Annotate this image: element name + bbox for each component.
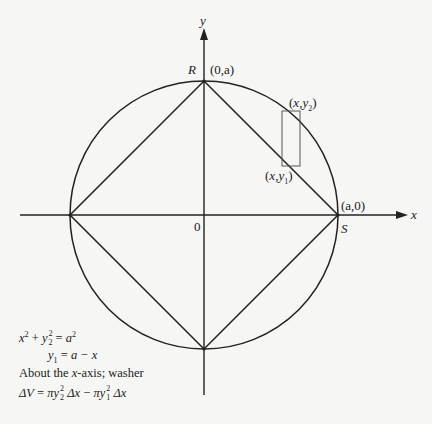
line3-post: -axis; washer bbox=[77, 366, 143, 380]
x-axis-arrow-icon bbox=[396, 211, 408, 219]
eq4-minus: − bbox=[80, 386, 93, 400]
equation-circle: x2 + y22 = a2 bbox=[19, 330, 76, 348]
eq1-y-sub: 2 bbox=[48, 338, 52, 347]
eq4-term1-exp: 2 bbox=[60, 384, 64, 393]
vertex-bottom bbox=[202, 347, 205, 350]
upper-point-label: (x,y2) bbox=[289, 96, 317, 109]
x-axis-label: x bbox=[411, 208, 417, 221]
eq4-term2: πy bbox=[93, 386, 105, 400]
eq1-plus: + bbox=[29, 331, 42, 345]
point-R-label: R bbox=[188, 63, 196, 76]
lower-point-label: (x,y1) bbox=[265, 169, 293, 182]
line3-pre: About the bbox=[19, 366, 72, 380]
eq4-term1-dx: Δx bbox=[64, 386, 80, 400]
point-S-coord-text: (a,0) bbox=[341, 198, 365, 213]
eq4-dv: ΔV bbox=[19, 386, 34, 400]
point-S-coord: (a,0) bbox=[341, 199, 365, 212]
eq4-term2-dx: Δx bbox=[110, 386, 126, 400]
eq1-a-exp: 2 bbox=[72, 330, 76, 339]
point-R-coord: (0,a) bbox=[210, 63, 234, 76]
point-S-label: S bbox=[341, 222, 348, 235]
vertex-S bbox=[336, 213, 339, 216]
washer-description: About the x-axis; washer bbox=[19, 367, 144, 380]
eq1-equals: = bbox=[52, 331, 65, 345]
eq1-y: y bbox=[42, 331, 48, 345]
y-axis-arrow-icon bbox=[200, 28, 208, 40]
y-axis-label: y bbox=[200, 14, 206, 27]
vertex-R bbox=[202, 79, 205, 82]
eq2-rhs: a − x bbox=[71, 348, 97, 362]
eq4-term1: πy bbox=[47, 386, 59, 400]
eq4-term1-supsub: 22 bbox=[60, 384, 64, 402]
vertex-left bbox=[68, 213, 71, 216]
eq4-term2-sub: 1 bbox=[106, 393, 110, 402]
equation-volume: ΔV = πy22 Δx − πy21 Δx bbox=[19, 385, 126, 403]
eq4-equals: = bbox=[34, 386, 47, 400]
eq1-y-supsub: 22 bbox=[48, 329, 52, 347]
eq4-term2-supsub: 21 bbox=[106, 384, 110, 402]
eq4-term1-sub: 2 bbox=[60, 393, 64, 402]
origin-label: 0 bbox=[194, 220, 201, 233]
equation-line: y1 = a − x bbox=[48, 349, 97, 362]
point-R-coord-text: (0,a) bbox=[210, 62, 234, 77]
eq1-y-exp: 2 bbox=[48, 329, 52, 338]
eq2-equals: = bbox=[58, 348, 71, 362]
eq4-term2-exp: 2 bbox=[106, 384, 110, 393]
